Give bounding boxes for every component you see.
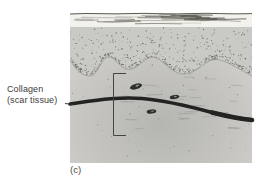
collagen-label-line2: (scar tissue) bbox=[7, 95, 57, 106]
collagen-label: Collagen (scar tissue) bbox=[7, 84, 57, 105]
panel-caption: (c) bbox=[70, 164, 81, 175]
collagen-label-line1: Collagen bbox=[7, 84, 57, 95]
figure-page: Collagen (scar tissue) (c) bbox=[0, 0, 268, 186]
skin-surface-contour bbox=[70, 13, 252, 14]
